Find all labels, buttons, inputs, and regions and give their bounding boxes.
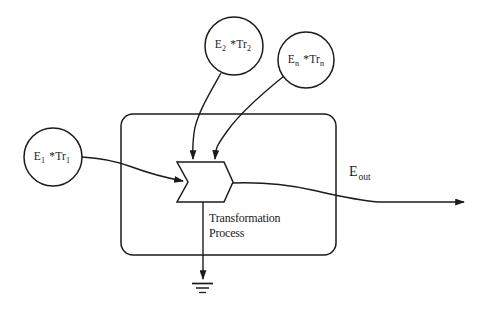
- source-e2-factor-sub: 2: [247, 44, 251, 53]
- process-label-line1: Transformation: [209, 211, 280, 226]
- source-e1-factor: *Tr: [49, 150, 66, 162]
- source-en-factor-sub: n: [320, 59, 324, 68]
- flow-arrow-output: [233, 183, 464, 202]
- source-e1-factor-sub: 1: [66, 156, 70, 165]
- label-output: Eout: [349, 164, 371, 180]
- output-base: E: [349, 164, 358, 179]
- label-source-e2: E2*Tr2: [215, 38, 251, 50]
- source-e1-base-sub: 1: [41, 156, 45, 165]
- interaction-symbol: [177, 162, 233, 202]
- source-e2-base-sub: 2: [222, 44, 226, 53]
- source-en-base-sub: n: [295, 59, 299, 68]
- label-process: Transformation Process: [209, 211, 280, 240]
- ground-symbol: [192, 284, 213, 293]
- output-sub: out: [359, 172, 371, 182]
- flow-arrow-e1-input: [82, 157, 183, 181]
- diagram-canvas: E2*Tr2 En*Trn E1*Tr1 Eout Transformation…: [0, 0, 488, 330]
- label-source-e1: E1*Tr1: [34, 150, 70, 162]
- source-e2-factor: *Tr: [230, 38, 247, 50]
- flow-arrow-en-input: [215, 76, 284, 159]
- process-label-line2: Process: [209, 226, 280, 241]
- label-source-en: En*Trn: [288, 53, 324, 65]
- source-en-factor: *Tr: [303, 53, 320, 65]
